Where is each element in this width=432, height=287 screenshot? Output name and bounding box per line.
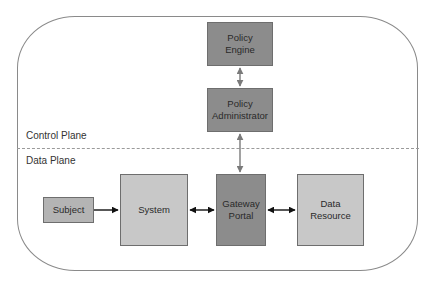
connector-layer xyxy=(0,0,432,287)
